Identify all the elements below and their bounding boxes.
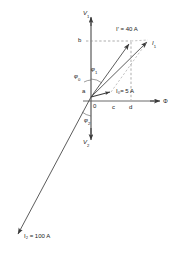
angle-label-phi1: φ1 <box>91 66 97 72</box>
i2-vector-line <box>18 97 91 234</box>
dashed-b-to-i1 <box>131 40 148 41</box>
point-label-a: a <box>82 88 85 94</box>
vector-label-i2: I₂ = 100 A <box>24 233 50 239</box>
phasor-diagram-canvas <box>0 0 177 253</box>
phi2-arc <box>82 112 91 116</box>
axis-label-v1: V1 <box>83 10 89 16</box>
point-label-origin: 0 <box>93 103 96 109</box>
vector-label-i0: I₀= 5 A <box>116 88 134 94</box>
angle-label-phi0: φ0 <box>74 73 80 79</box>
phi1-arc <box>91 79 102 83</box>
vector-label-i1: I1 <box>152 40 156 46</box>
point-label-b: b <box>78 37 81 43</box>
phi0-arc <box>84 80 91 82</box>
axis-label-v2: V2 <box>83 139 89 145</box>
axis-label-flux: Φ <box>163 98 168 104</box>
point-label-d: d <box>129 104 132 110</box>
dashed-i0-to-i1-tip <box>111 42 147 92</box>
point-label-c: c <box>112 104 115 110</box>
angle-label-phi2: φ2 <box>84 117 90 123</box>
vector-label-i-prime: I′ = 40 A <box>116 26 138 32</box>
